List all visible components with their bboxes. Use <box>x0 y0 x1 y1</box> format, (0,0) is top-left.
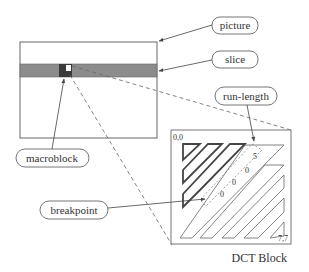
dct-corner-top-left: 0,0 <box>173 133 183 142</box>
run-value: 0 <box>220 190 224 199</box>
dct-block: 0 0 0 5 0,0 7,7 <box>171 130 291 244</box>
dct-block-highlight <box>66 65 71 71</box>
dct-block-caption: DCT Block <box>232 251 287 265</box>
run-value: 0 <box>245 166 249 175</box>
svg-text:picture: picture <box>220 19 251 31</box>
svg-text:breakpoint: breakpoint <box>50 204 97 216</box>
dct-corner-bottom-right: 7,7 <box>278 234 288 243</box>
label-picture: picture <box>159 17 258 41</box>
svg-text:run-length: run-length <box>223 90 269 102</box>
picture-frame <box>20 42 157 138</box>
run-value: 5 <box>253 152 257 161</box>
svg-text:macroblock: macroblock <box>26 152 78 164</box>
svg-text:slice: slice <box>225 53 245 65</box>
run-value: 0 <box>232 178 236 187</box>
label-slice: slice <box>159 51 258 71</box>
mpeg-structure-diagram: 0 0 0 5 0,0 7,7 picture slice run-length… <box>0 0 309 272</box>
